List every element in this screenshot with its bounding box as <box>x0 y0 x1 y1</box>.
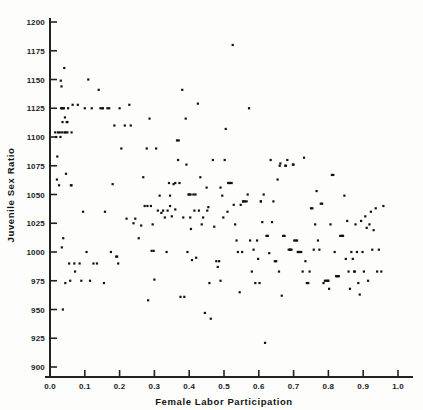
data-point <box>283 235 285 237</box>
data-point <box>284 165 286 167</box>
data-point <box>195 257 197 259</box>
data-point <box>98 89 100 91</box>
data-point <box>225 128 227 130</box>
data-point <box>272 200 274 202</box>
data-point <box>309 270 311 272</box>
data-point <box>239 291 241 293</box>
y-tick-label: 1050 <box>26 191 45 200</box>
data-point <box>183 296 185 298</box>
data-point <box>218 260 220 262</box>
y-tick-label: 950 <box>31 306 45 315</box>
data-point <box>378 249 380 251</box>
data-point <box>212 159 214 161</box>
data-point <box>271 221 273 223</box>
data-point <box>201 223 203 225</box>
data-point <box>322 282 324 284</box>
data-point <box>147 299 149 301</box>
data-point <box>186 251 188 253</box>
data-point <box>221 195 223 197</box>
data-point <box>155 147 157 149</box>
data-point <box>193 210 195 212</box>
data-point <box>61 131 63 133</box>
data-point <box>194 193 196 195</box>
data-point <box>125 218 127 220</box>
data-point <box>70 131 72 133</box>
data-point <box>210 318 212 320</box>
data-point <box>276 178 278 180</box>
data-point <box>380 270 382 272</box>
data-point <box>165 251 167 253</box>
data-point <box>58 184 60 186</box>
data-point <box>84 107 86 109</box>
data-point <box>231 182 233 184</box>
y-tick-label: 1100 <box>27 133 46 142</box>
data-point <box>153 250 155 252</box>
data-point <box>371 249 373 251</box>
data-point <box>318 249 320 251</box>
y-axis: 9009259509751000102510501075110011251150… <box>26 18 57 377</box>
data-point <box>234 223 236 225</box>
x-tick-label: 1.0 <box>392 382 404 391</box>
data-point <box>367 280 369 282</box>
y-tick-label: 1175 <box>27 47 46 56</box>
data-point <box>314 223 316 225</box>
data-point <box>192 193 194 195</box>
x-tick-label: 0.6 <box>253 382 265 391</box>
data-point <box>237 251 239 253</box>
data-point <box>150 205 152 207</box>
data-point <box>261 221 263 223</box>
data-point <box>134 218 136 220</box>
data-point <box>334 251 336 253</box>
data-point <box>361 251 363 253</box>
data-point <box>235 239 237 241</box>
data-point <box>213 226 215 228</box>
data-point <box>206 210 208 212</box>
data-point <box>307 282 309 284</box>
data-point <box>128 104 130 106</box>
y-tick-label: 1075 <box>26 162 45 171</box>
data-point <box>341 235 343 237</box>
data-point <box>70 184 72 186</box>
data-point <box>251 270 253 272</box>
x-tick-label: 0.8 <box>323 382 335 391</box>
data-point <box>208 282 210 284</box>
y-tick-label: 1000 <box>26 248 45 257</box>
data-point <box>327 280 329 282</box>
data-point <box>356 251 358 253</box>
x-tick-label: 0.3 <box>149 382 161 391</box>
data-point <box>264 342 266 344</box>
x-tick-label: 0.1 <box>79 382 91 391</box>
data-point <box>181 89 183 91</box>
data-point <box>132 222 134 224</box>
data-point <box>64 282 66 284</box>
data-point <box>249 239 251 241</box>
data-point <box>350 251 352 253</box>
data-point <box>74 270 76 272</box>
data-point <box>270 159 272 161</box>
data-point <box>364 215 366 217</box>
x-tick-label: 0.0 <box>44 382 56 391</box>
data-point <box>217 266 219 268</box>
data-point <box>281 295 283 297</box>
data-point <box>300 251 302 253</box>
data-point <box>198 210 200 212</box>
data-point <box>64 116 66 118</box>
data-point <box>167 210 169 212</box>
data-point <box>80 280 82 282</box>
data-point <box>263 193 265 195</box>
data-point <box>190 228 192 230</box>
data-point <box>119 107 121 109</box>
data-point <box>87 78 89 80</box>
data-point <box>357 282 359 284</box>
data-point <box>55 136 57 138</box>
data-points-layer <box>54 44 384 344</box>
data-point <box>59 131 61 133</box>
data-point <box>207 206 209 208</box>
data-point <box>113 124 115 126</box>
data-point <box>370 211 372 213</box>
data-point <box>303 157 305 159</box>
data-point <box>189 216 191 218</box>
data-point <box>103 282 105 284</box>
data-point <box>347 270 349 272</box>
data-point <box>66 121 68 123</box>
